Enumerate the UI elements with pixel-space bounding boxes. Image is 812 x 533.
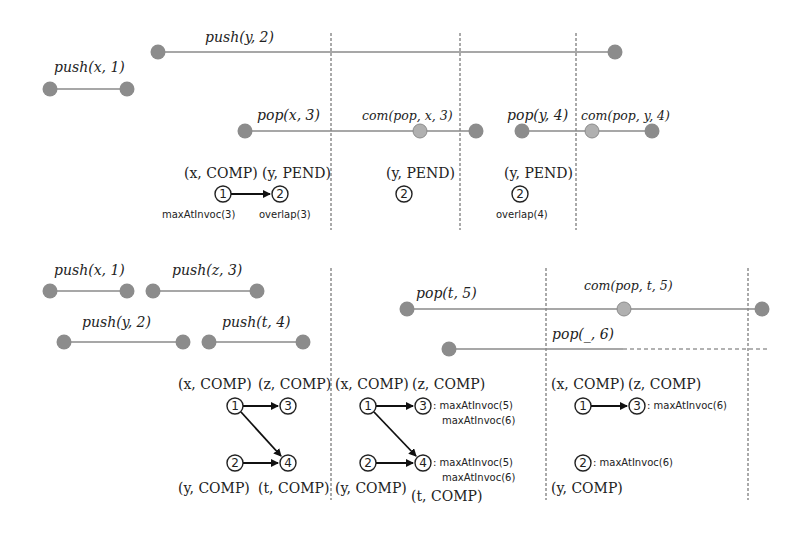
node-annotation: maxAtInvoc(3) (162, 209, 235, 220)
operation-label: pop(y, 4) (507, 107, 568, 123)
node-state-label: (y, COMP) (335, 480, 407, 496)
node-annotation: : maxAtInvoc(5) (433, 400, 513, 411)
node-id: 1 (219, 187, 227, 201)
node-state-label: (z, COMP) (412, 376, 485, 392)
bottom-history: push(x, 1) push(z, 3) push(y, 2) push(t,… (43, 262, 771, 504)
order-edge (374, 412, 416, 456)
node-state-label: (z, COMP) (628, 376, 701, 392)
commit-label: com(pop, y, 4) (581, 108, 670, 123)
bottom-snapshot-1: (x, COMP) (z, COMP) 1 3 2 4 (y, COMP) (t… (178, 376, 331, 496)
node-state-label: (x, COMP) (184, 165, 258, 181)
commit-label: com(pop, x, 3) (362, 108, 453, 123)
node-annotation: overlap(4) (496, 209, 548, 220)
top-snapshot-3: (y, PEND) 2 overlap(4) (496, 165, 573, 220)
commit-point-icon (413, 124, 427, 138)
operation-label: push(y, 2) (82, 314, 151, 330)
operation-pop-t-5: pop(t, 5) com(pop, t, 5) (400, 278, 770, 317)
node-state-label: (x, COMP) (551, 376, 625, 392)
operation-push-x-1: push(x, 1) (43, 59, 135, 97)
node-state-label: (y, PEND) (504, 165, 573, 181)
linearizability-diagram: push(y, 2) push(x, 1) pop(x, 3) com(pop,… (0, 0, 812, 533)
operation-label: push(t, 4) (222, 314, 291, 330)
operation-label: pop(t, 5) (416, 285, 477, 301)
node-id: 2 (579, 456, 587, 470)
node-annotation: overlap(3) (259, 209, 311, 220)
node-state-label: (x, COMP) (335, 376, 409, 392)
node-id: 3 (633, 399, 641, 413)
operation-push-t-4: push(t, 4) (202, 314, 311, 350)
node-annotation: : maxAtInvoc(6) (593, 457, 673, 468)
node-state-label: (y, COMP) (551, 480, 623, 496)
node-annotation: maxAtInvoc(6) (442, 472, 515, 483)
order-edge (241, 412, 281, 456)
node-state-label: (y, PEND) (386, 165, 455, 181)
node-id: 2 (364, 456, 372, 470)
node-id: 2 (276, 187, 284, 201)
operation-pop-y-4: pop(y, 4) com(pop, y, 4) (507, 107, 670, 139)
node-annotation: : maxAtInvoc(5) (433, 457, 513, 468)
operation-label: push(x, 1) (54, 262, 125, 278)
operation-label: pop(x, 3) (257, 107, 320, 123)
node-state-label: (y, COMP) (178, 480, 250, 496)
node-state-label: (y, PEND) (262, 165, 331, 181)
node-annotation: maxAtInvoc(6) (442, 415, 515, 426)
node-state-label: (t, COMP) (411, 488, 482, 504)
node-state-label: (t, COMP) (258, 480, 329, 496)
operation-push-x-1: push(x, 1) (43, 262, 135, 299)
top-snapshot-1: (x, COMP) (y, PEND) 1 2 maxAtInvoc(3) ov… (162, 165, 331, 220)
operation-push-y-2: push(y, 2) (151, 29, 623, 60)
operation-push-z-3: push(z, 3) (146, 262, 265, 299)
bottom-snapshot-2: (x, COMP) (z, COMP) 1 3 2 4 : maxAtInvoc… (335, 376, 515, 504)
operation-label: push(x, 1) (54, 59, 125, 75)
commit-point-icon (617, 302, 631, 316)
top-snapshot-2: (y, PEND) 2 (386, 165, 455, 202)
commit-point-icon (585, 124, 599, 138)
commit-label: com(pop, t, 5) (584, 278, 673, 293)
node-id: 2 (231, 456, 239, 470)
operation-label: push(z, 3) (172, 262, 242, 278)
top-history: push(y, 2) push(x, 1) pop(x, 3) com(pop,… (43, 29, 671, 230)
node-state-label: (z, COMP) (258, 376, 331, 392)
operation-pop-any-6: pop(_, 6) (442, 326, 771, 357)
operation-label: pop(_, 6) (552, 326, 614, 343)
node-state-label: (x, COMP) (178, 376, 252, 392)
operation-pop-x-3: pop(x, 3) com(pop, x, 3) (238, 107, 484, 139)
node-id: 1 (231, 399, 239, 413)
operation-push-y-2: push(y, 2) (57, 314, 191, 350)
node-id: 4 (284, 456, 292, 470)
node-id: 2 (400, 187, 408, 201)
node-id: 1 (364, 399, 372, 413)
node-id: 1 (579, 399, 587, 413)
node-id: 4 (419, 456, 427, 470)
node-id: 3 (419, 399, 427, 413)
node-id: 3 (284, 399, 292, 413)
operation-label: push(y, 2) (205, 29, 274, 45)
node-id: 2 (516, 187, 524, 201)
node-annotation: : maxAtInvoc(6) (647, 400, 727, 411)
bottom-snapshot-3: (x, COMP) (z, COMP) 1 3 : maxAtInvoc(6) … (551, 376, 727, 496)
